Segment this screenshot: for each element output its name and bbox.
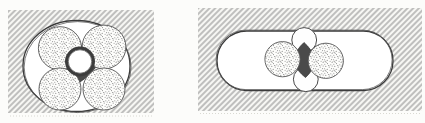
cable-core (83, 68, 125, 110)
center-ring-bore (68, 50, 91, 73)
scanned-figure (0, 0, 425, 123)
flat-duct-two-core-cable (198, 8, 422, 114)
cable-core (265, 42, 300, 77)
cable-core (308, 43, 343, 78)
oval-duct-four-core-cable (8, 10, 154, 116)
cable-cross-section-diagram (0, 0, 425, 123)
